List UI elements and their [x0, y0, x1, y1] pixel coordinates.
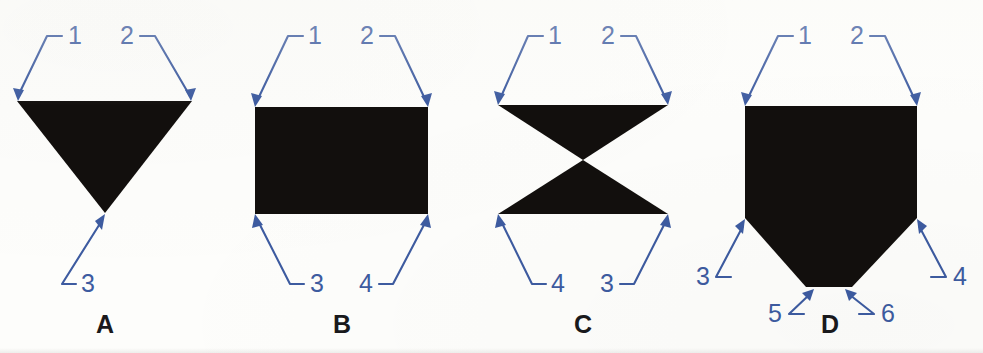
callout-label: 3: [696, 262, 710, 290]
panel-letter-d: D: [821, 310, 839, 338]
figure-diagram: 1 2 3 A 1: [0, 0, 983, 353]
callout-label: 6: [881, 299, 895, 327]
callout-label: 3: [600, 269, 614, 297]
callout-label: 2: [360, 21, 374, 49]
callout-label: 3: [81, 269, 95, 297]
callout-label: 5: [768, 299, 782, 327]
callout-label: 4: [953, 262, 967, 290]
panel-letter-a: A: [96, 310, 114, 338]
callout-label: 1: [308, 21, 322, 49]
callout-label: 2: [601, 21, 615, 49]
callout-label: 4: [359, 269, 373, 297]
figure-panel-container: 1 2 3 A 1: [0, 0, 983, 353]
callout-label: 1: [798, 21, 812, 49]
shape-rectangle: [255, 107, 428, 214]
callout-label: 1: [68, 21, 82, 49]
callout-label: 2: [120, 21, 134, 49]
panel-letter-b: B: [333, 310, 351, 338]
callout-label: 2: [850, 21, 864, 49]
panel-letter-c: C: [574, 310, 592, 338]
callout-label: 4: [551, 269, 565, 297]
callout-label: 3: [310, 269, 324, 297]
callout-label: 1: [548, 21, 562, 49]
